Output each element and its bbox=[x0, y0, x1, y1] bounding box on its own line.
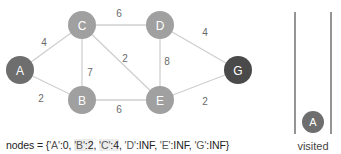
edge-weight-C-B: 7 bbox=[87, 67, 93, 78]
dict-value: 0 bbox=[63, 139, 69, 151]
node-label: G bbox=[233, 64, 242, 78]
dict-key: 'E' bbox=[160, 139, 171, 151]
node-label: B bbox=[78, 94, 86, 108]
dict-value: INF bbox=[139, 139, 154, 151]
node-D: D bbox=[146, 11, 174, 39]
node-label: C bbox=[78, 19, 87, 33]
edge-weight-A-C: 4 bbox=[41, 37, 47, 48]
dict-key: 'A' bbox=[49, 139, 60, 151]
graph-diagram: 426728462 ACDBEG A visited bbox=[0, 0, 341, 154]
edge-C-E bbox=[82, 25, 160, 100]
node-G: G bbox=[224, 56, 252, 84]
edge-weight-C-D: 6 bbox=[116, 8, 122, 19]
node-C: C bbox=[68, 11, 96, 39]
node-E: E bbox=[146, 86, 174, 114]
edge-weight-B-E: 6 bbox=[116, 104, 122, 115]
visited-node-label: A bbox=[309, 116, 317, 128]
nodes-dict-entry: 'E':INF bbox=[160, 139, 189, 151]
nodes-dict-entry: 'B':2 bbox=[74, 139, 93, 151]
node-label: A bbox=[16, 64, 24, 78]
nodes-dict-entry: 'C':4 bbox=[99, 139, 119, 151]
nodes-dict-text: nodes = {'A':0, 'B':2, 'C':4, 'D':INF, '… bbox=[6, 139, 229, 151]
edge-weight-D-G: 4 bbox=[202, 27, 208, 38]
visited-label: visited bbox=[297, 140, 328, 152]
nodes-dict-entry: 'D':INF bbox=[125, 139, 155, 151]
edge-weight-D-E: 8 bbox=[164, 56, 170, 67]
nodes-dict-prefix: nodes = { bbox=[6, 139, 49, 151]
edges: 426728462 bbox=[20, 8, 238, 115]
node-label: E bbox=[156, 94, 164, 108]
dict-key: 'C' bbox=[99, 139, 110, 151]
dict-value: 4 bbox=[113, 139, 119, 151]
dict-key: 'D' bbox=[125, 139, 136, 151]
node-A: A bbox=[6, 56, 34, 84]
edge-weight-A-B: 2 bbox=[38, 93, 44, 104]
dict-key: 'B' bbox=[74, 139, 85, 151]
dict-key: 'G' bbox=[194, 139, 206, 151]
nodes-dict-suffix: } bbox=[226, 139, 229, 151]
edge-weight-E-G: 2 bbox=[202, 96, 208, 107]
nodes-dict-entry: 'A':0 bbox=[49, 139, 68, 151]
dict-value: INF bbox=[209, 139, 226, 151]
node-B: B bbox=[68, 86, 96, 114]
node-label: D bbox=[156, 19, 165, 33]
visited-stack: A visited bbox=[295, 12, 331, 152]
dict-value: INF bbox=[173, 139, 188, 151]
dict-value: 2 bbox=[88, 139, 94, 151]
edge-weight-C-E: 2 bbox=[122, 53, 128, 64]
nodes-dict-entry: 'G':INF bbox=[194, 139, 225, 151]
